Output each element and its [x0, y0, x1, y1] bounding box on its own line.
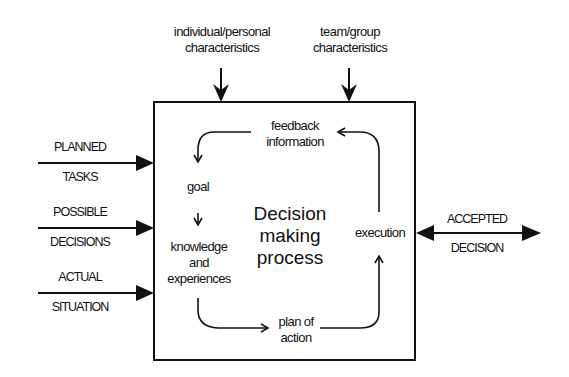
process-title: Decision making process — [240, 203, 340, 269]
label-line: and — [155, 255, 243, 271]
goal: goal — [178, 179, 218, 195]
label-line: making — [240, 225, 340, 247]
execution: execution — [345, 225, 415, 241]
label-line: individual/personal — [162, 24, 282, 40]
input-planned-tasks-bottom: TASKS — [40, 169, 120, 185]
label-line: characteristics — [162, 40, 282, 56]
top-input-team: team/group characteristics — [300, 24, 400, 56]
output-accepted-decision-top: ACCEPTED — [437, 211, 517, 227]
label-line: experiences — [155, 271, 243, 287]
label-line: feedback — [250, 118, 340, 134]
input-actual-situation-top: ACTUAL — [40, 269, 120, 285]
label-line: action — [268, 330, 324, 346]
label-line: Decision — [240, 203, 340, 225]
input-possible-decisions-top: POSSIBLE — [40, 204, 120, 220]
label-line: process — [240, 247, 340, 269]
top-input-individual: individual/personal characteristics — [162, 24, 282, 56]
label-line: team/group — [300, 24, 400, 40]
input-planned-tasks-top: PLANNED — [40, 139, 120, 155]
plan-of-action: plan of action — [268, 314, 324, 346]
label-line: knowledge — [155, 239, 243, 255]
label-line: plan of — [268, 314, 324, 330]
feedback-information: feedback information — [250, 118, 340, 150]
label-line: characteristics — [300, 40, 400, 56]
input-possible-decisions-bottom: DECISIONS — [40, 234, 120, 250]
input-actual-situation-bottom: SITUATION — [40, 299, 120, 315]
label-line: information — [250, 134, 340, 150]
output-accepted-decision-bottom: DECISION — [437, 240, 517, 256]
knowledge-and-experiences: knowledge and experiences — [155, 239, 243, 287]
